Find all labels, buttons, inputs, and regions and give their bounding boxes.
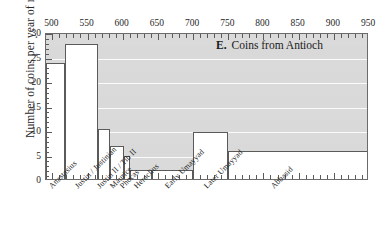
y-minor-tick xyxy=(46,137,49,138)
x-minor-tick xyxy=(116,34,117,38)
y-minor-tick xyxy=(46,54,49,55)
x-minor-tick xyxy=(249,34,250,38)
x-minor-tick-bottom xyxy=(362,175,363,179)
y-major-tick xyxy=(46,108,52,109)
x-minor-tick xyxy=(292,34,293,38)
x-minor-tick-bottom xyxy=(341,175,342,179)
y-major-tick xyxy=(46,132,52,133)
x-tick-label: 550 xyxy=(79,18,93,28)
y-tick-label: 20 xyxy=(21,77,41,87)
x-minor-tick-bottom xyxy=(306,175,307,179)
x-major-tick xyxy=(193,34,194,40)
y-minor-tick xyxy=(46,78,49,79)
y-minor-tick xyxy=(46,44,49,45)
x-minor-tick-bottom xyxy=(95,175,96,179)
x-tick-label: 600 xyxy=(115,18,129,28)
x-minor-tick xyxy=(348,34,349,38)
y-major-tick xyxy=(46,59,52,60)
x-major-tick-bottom xyxy=(158,173,159,179)
y-tick-label: 30 xyxy=(21,28,41,38)
x-minor-tick xyxy=(207,34,208,38)
x-tick-label: 750 xyxy=(220,18,234,28)
x-minor-tick-bottom xyxy=(313,175,314,179)
x-minor-tick xyxy=(165,34,166,38)
x-minor-tick xyxy=(341,34,342,38)
x-minor-tick xyxy=(109,34,110,38)
x-minor-tick-bottom xyxy=(320,175,321,179)
y-tick-label: 5 xyxy=(21,151,41,161)
x-minor-tick xyxy=(130,34,131,38)
plot-area xyxy=(45,33,368,180)
x-major-tick xyxy=(158,34,159,40)
y-minor-tick xyxy=(46,103,49,104)
y-minor-tick xyxy=(46,122,49,123)
x-minor-tick xyxy=(313,34,314,38)
x-minor-tick xyxy=(235,34,236,38)
x-tick-label: 900 xyxy=(326,18,340,28)
y-minor-tick xyxy=(46,166,49,167)
x-minor-tick xyxy=(172,34,173,38)
x-major-tick xyxy=(123,34,124,40)
y-minor-tick xyxy=(46,152,49,153)
y-tick-label: 15 xyxy=(21,102,41,112)
x-tick-label: 650 xyxy=(150,18,164,28)
x-minor-tick xyxy=(355,34,356,38)
x-minor-tick-bottom xyxy=(256,175,257,179)
x-minor-tick xyxy=(320,34,321,38)
chart-figure: Number of coins per year of reign E.Coin… xyxy=(0,0,385,241)
x-minor-tick xyxy=(186,34,187,38)
x-minor-tick xyxy=(66,34,67,38)
y-minor-tick xyxy=(46,147,49,148)
x-tick-label: 500 xyxy=(44,18,58,28)
x-major-tick-bottom xyxy=(299,173,300,179)
y-minor-tick xyxy=(46,142,49,143)
y-minor-tick xyxy=(46,161,49,162)
y-minor-tick xyxy=(46,93,49,94)
x-minor-tick xyxy=(214,34,215,38)
x-minor-tick xyxy=(270,34,271,38)
x-minor-tick-bottom xyxy=(249,175,250,179)
x-minor-tick xyxy=(327,34,328,38)
x-minor-tick xyxy=(362,34,363,38)
panel-title: E.Coins from Antioch xyxy=(216,39,323,51)
x-minor-tick-bottom xyxy=(348,175,349,179)
x-major-tick xyxy=(88,34,89,40)
x-minor-tick-bottom xyxy=(292,175,293,179)
x-minor-tick xyxy=(200,34,201,38)
x-tick-label: 700 xyxy=(185,18,199,28)
y-minor-tick xyxy=(46,127,49,128)
x-minor-tick-bottom xyxy=(270,175,271,179)
y-major-tick xyxy=(46,83,52,84)
x-major-tick xyxy=(334,34,335,40)
x-tick-label: 950 xyxy=(361,18,375,28)
x-minor-tick xyxy=(102,34,103,38)
x-minor-tick xyxy=(95,34,96,38)
x-minor-tick-bottom xyxy=(73,175,74,179)
x-major-tick-bottom xyxy=(334,173,335,179)
x-major-tick-bottom xyxy=(193,173,194,179)
x-minor-tick xyxy=(137,34,138,38)
x-minor-tick xyxy=(151,34,152,38)
x-minor-tick-bottom xyxy=(242,175,243,179)
x-minor-tick xyxy=(80,34,81,38)
x-minor-tick-bottom xyxy=(165,175,166,179)
x-minor-tick xyxy=(179,34,180,38)
y-minor-tick xyxy=(46,68,49,69)
x-minor-tick xyxy=(306,34,307,38)
y-minor-tick xyxy=(46,73,49,74)
y-tick-label: 0 xyxy=(21,175,41,185)
y-tick-label: 10 xyxy=(21,126,41,136)
x-minor-tick xyxy=(221,34,222,38)
y-minor-tick xyxy=(46,49,49,50)
panel-title-letter: E. xyxy=(216,39,227,51)
x-minor-tick xyxy=(73,34,74,38)
y-minor-tick xyxy=(46,171,49,172)
x-minor-tick-bottom xyxy=(186,175,187,179)
y-minor-tick xyxy=(46,176,49,177)
x-major-tick xyxy=(52,34,53,40)
x-minor-tick-bottom xyxy=(235,175,236,179)
x-minor-tick xyxy=(144,34,145,38)
y-minor-tick xyxy=(46,39,49,40)
x-minor-tick-bottom xyxy=(355,175,356,179)
x-major-tick-bottom xyxy=(263,173,264,179)
